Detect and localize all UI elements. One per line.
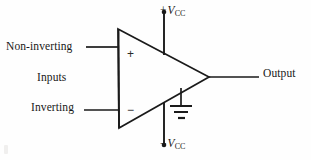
non-inverting-input-label: Non-inverting bbox=[6, 41, 72, 53]
negative-supply-sign: − bbox=[160, 137, 167, 149]
negative-supply-subscript: CC bbox=[175, 142, 186, 151]
negative-supply-symbol: V bbox=[167, 137, 175, 149]
output-label: Output bbox=[263, 68, 296, 80]
inputs-group-label: Inputs bbox=[37, 72, 66, 84]
positive-supply-label: +VCC bbox=[160, 5, 185, 18]
positive-supply-subscript: CC bbox=[175, 9, 186, 18]
non-inverting-terminal-plus-sign: + bbox=[127, 48, 134, 60]
inverting-input-label: Inverting bbox=[31, 102, 74, 114]
positive-supply-sign: + bbox=[160, 4, 167, 16]
positive-supply-symbol: V bbox=[167, 4, 175, 16]
negative-supply-label: −VCC bbox=[160, 138, 185, 151]
op-amp-schematic-figure: + − Non-inverting Inputs Inverting Outpu… bbox=[0, 0, 311, 160]
amplifier-input-edge bbox=[119, 29, 120, 128]
scan-artifact bbox=[4, 145, 8, 154]
inverting-terminal-minus-sign: − bbox=[127, 104, 134, 116]
